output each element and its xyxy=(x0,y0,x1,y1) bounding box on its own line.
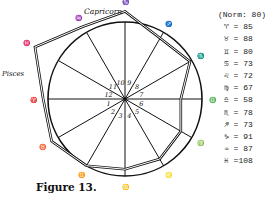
legend-row: ♈ = 85 xyxy=(218,21,268,33)
sign-symbol: ♋ xyxy=(122,183,130,191)
sign-symbol: ♒ xyxy=(75,14,83,22)
house-number: 8 xyxy=(135,83,139,91)
sign-symbol: ♌ xyxy=(165,171,173,179)
center-dot xyxy=(123,97,127,101)
figure-caption: Figure 13. xyxy=(36,181,97,193)
sign-symbol: ♑ xyxy=(122,0,130,6)
sign-symbol: ♊ xyxy=(78,171,86,179)
pisces-label: Pisces xyxy=(1,70,25,78)
sign-symbol: ♉ xyxy=(39,143,47,151)
sign-symbol: ♈ xyxy=(30,96,38,104)
capricorn-label: Capricorn xyxy=(84,7,122,16)
legend-rows: ♈ = 85♉ = 88♊ = 80♋ = 73♌ = 72♍ = 67♎ = … xyxy=(218,21,268,167)
house-number: 9 xyxy=(127,79,131,87)
house-number: 2 xyxy=(110,108,115,116)
legend-row: ♌ = 72 xyxy=(218,70,268,82)
sign-symbol: ♓ xyxy=(23,39,31,47)
house-number: 3 xyxy=(119,112,123,120)
legend-row: ♐ = 73 xyxy=(218,119,268,131)
legend-row: ♉ = 88 xyxy=(218,33,268,45)
sign-symbol: ♏ xyxy=(197,52,205,60)
legend-row: ♏ = 78 xyxy=(218,107,268,119)
legend-norm: (Norm: 80) xyxy=(218,9,268,21)
legend: (Norm: 80) ♈ = 85♉ = 88♊ = 80♋ = 73♌ = 7… xyxy=(218,9,268,168)
house-number: 4 xyxy=(126,112,131,120)
sign-symbol: ♐ xyxy=(165,20,173,28)
house-number: 12 xyxy=(104,91,112,99)
sign-symbol: ♍ xyxy=(197,139,205,147)
legend-row: ♍ = 67 xyxy=(218,82,268,94)
legend-row: ♒ = 87 xyxy=(218,143,268,155)
house-number: 7 xyxy=(139,91,144,99)
sign-symbols: ♈♉♊♋♌♍♎♏♐♑♒♓ xyxy=(23,0,217,190)
sign-symbol: ♎ xyxy=(209,96,217,104)
legend-row: ♓ =108 xyxy=(218,155,268,167)
house-number: 6 xyxy=(139,100,143,108)
legend-row: ♋ = 73 xyxy=(218,58,268,70)
legend-row: ♎ = 58 xyxy=(218,94,268,106)
house-number: 10 xyxy=(116,79,124,87)
legend-row: ♊ = 80 xyxy=(218,46,268,58)
house-number: 5 xyxy=(135,108,139,116)
legend-row: ♑ = 91 xyxy=(218,131,268,143)
